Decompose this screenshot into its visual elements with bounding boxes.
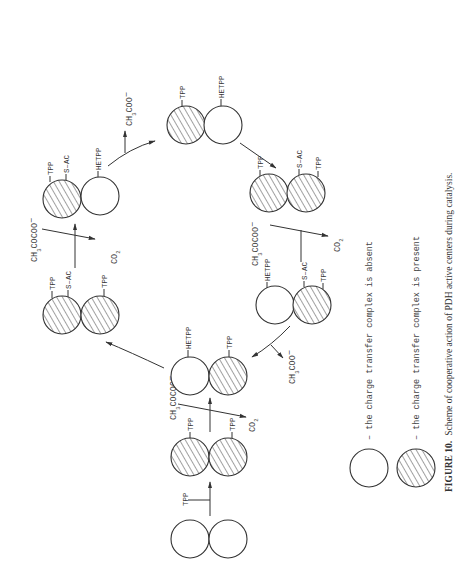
co2-label: CO2	[110, 250, 122, 264]
sac-label: S–AC	[65, 270, 73, 289]
hatched-circle	[81, 296, 119, 334]
open-circle	[204, 106, 242, 144]
state-D-open-hatched: HETPP S–AC TPP	[256, 258, 331, 324]
hatched-circle	[293, 286, 331, 324]
state-H-open-open	[171, 520, 247, 558]
tpp-label: TPP	[179, 85, 187, 99]
figure-caption: FIGURE 10.Scheme of cooperative action o…	[444, 173, 454, 492]
co2-label: CO2	[248, 418, 260, 432]
tpp-label: TPP	[49, 276, 57, 290]
pyruvate-label: CH3COCOO−	[27, 218, 43, 262]
hatched-circle	[209, 438, 247, 476]
hatched-circle	[43, 296, 81, 334]
tpp-label: TPP	[101, 274, 109, 288]
sac-label: S–AC	[63, 154, 71, 173]
pyruvate-label: CH3COCOO−	[248, 222, 264, 266]
sac-label: S–AC	[301, 261, 309, 280]
tpp-label: TPP	[315, 156, 323, 170]
tpp-label: TPP	[47, 161, 55, 175]
state-F-open-hatched: HETPP TPP	[171, 326, 247, 395]
hetpp-label: HETPP	[264, 258, 272, 281]
hatched-circle	[250, 174, 288, 212]
open-circle	[209, 520, 247, 558]
open-circle	[81, 177, 119, 215]
hatched-circle	[287, 174, 325, 212]
co2-label: CO2	[333, 238, 345, 252]
tpp-label: TPP	[229, 417, 237, 431]
tpp-label: TPP	[320, 268, 328, 282]
transition-F-E-arrow	[106, 342, 164, 368]
pdh-scheme-diagram: TPP TPP TPP CH3COCOO− CO2 HETPP TPP TPP …	[0, 0, 469, 574]
state-B-hatched-open: TPP HETPP	[167, 75, 242, 144]
hetpp-label: HETPP	[218, 75, 226, 98]
transition-C-D: CH3COCOO− CO2	[248, 222, 345, 266]
acetate-label: CH3COO−	[285, 350, 301, 384]
transition-A-B: CH3COO−	[108, 92, 155, 166]
transition-E-A: CH3COCOO− CO2	[27, 218, 122, 268]
legend-hatched-circle	[397, 449, 435, 487]
hatched-circle	[209, 357, 247, 395]
open-circle	[171, 520, 209, 558]
legend-present-text: – the charge transfer complex is present	[412, 236, 422, 440]
tpp-input-label: TPP	[182, 492, 190, 506]
legend-absent-text: – the charge transfer complex is absent	[365, 241, 375, 440]
acetate-label: CH3COO−	[122, 92, 138, 126]
figure-number: FIGURE 10.	[444, 441, 454, 492]
hatched-circle	[171, 438, 209, 476]
open-circle	[256, 286, 294, 324]
tpp-label: TPP	[226, 335, 234, 349]
transition-D-F: CH3COO−	[252, 326, 301, 384]
tpp-label: TPP	[257, 155, 265, 169]
state-G-hatched-hatched: TPP TPP	[171, 417, 247, 476]
legend-open-circle	[350, 449, 388, 487]
state-E-hatched-hatched: TPP S–AC TPP	[43, 270, 119, 334]
hatched-circle	[167, 106, 205, 144]
transition-H-G: TPP	[182, 482, 210, 516]
sac-label: S–AC	[296, 149, 304, 168]
hetpp-label: HETPP	[95, 147, 103, 170]
state-A-hatched-open: TPP S–AC HETPP	[43, 147, 119, 218]
hetpp-label: HETPP	[185, 326, 193, 349]
state-C-hatched-hatched: TPP S–AC TPP	[250, 149, 325, 212]
tpp-label: TPP	[187, 417, 195, 431]
legend: – the charge transfer complex is absent …	[350, 236, 435, 487]
open-circle	[171, 357, 209, 395]
hatched-circle	[43, 180, 81, 218]
